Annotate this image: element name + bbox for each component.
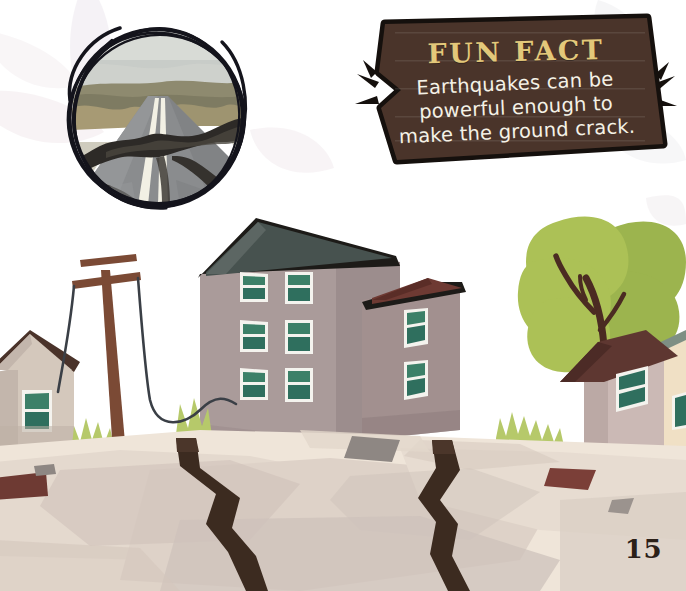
book-page: FUN FACT Earthquakes can be powerful eno… [0, 0, 686, 591]
annex-building [362, 278, 466, 440]
left-house [0, 330, 80, 446]
page-number: 15 [625, 534, 662, 564]
cracked-road-photo [72, 30, 242, 205]
photo-circle [62, 20, 252, 215]
fun-fact-banner: FUN FACT Earthquakes can be powerful eno… [355, 12, 677, 167]
ground [0, 430, 686, 591]
